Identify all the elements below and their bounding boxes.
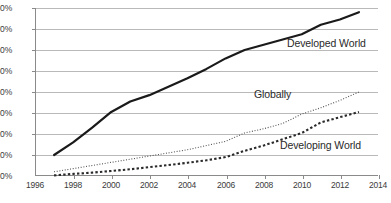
series-annotation-developing-world: Developing World: [280, 139, 361, 151]
series-line-developed-world: [54, 12, 359, 155]
series-lines: [0, 0, 391, 203]
series-annotation-globally: Globally: [254, 88, 291, 100]
series-annotation-developed-world: Developed World: [287, 37, 366, 49]
line-chart: 80% 70% 60% 50% 40% 30% 20% 10% 0% 1996 …: [0, 0, 391, 203]
